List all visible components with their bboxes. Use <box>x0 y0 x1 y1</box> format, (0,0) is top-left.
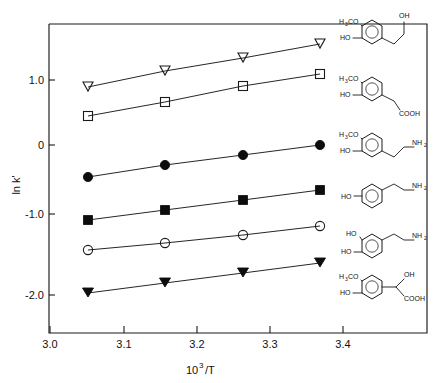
figure-container: 1.0 0 -1.0 -2.0 3.0 3.1 3.2 3.3 3.4 ln k… <box>0 0 437 383</box>
x-tick-label-1: 3.0 <box>42 338 57 350</box>
x-tick-label-4: 3.3 <box>262 338 277 350</box>
plot-frame <box>49 24 427 333</box>
structure-mhpg-methoxy-tail: CO <box>348 18 359 25</box>
structure-dopamine-hydroxy-top: HO <box>346 230 357 237</box>
structure-mtyr-methoxy-tail: CO <box>348 131 359 138</box>
x-tick-label-3: 3.2 <box>189 338 204 350</box>
structure-tyramine-terminal-sub: 2 <box>424 185 427 191</box>
structure-hva-hydroxy: HO <box>340 91 351 98</box>
vant-hoff-plot: 1.0 0 -1.0 -2.0 3.0 3.1 3.2 3.3 3.4 ln k… <box>0 0 437 383</box>
y-tick-label-4: -2.0 <box>25 289 44 301</box>
structure-mtyr-terminal: NH <box>412 139 422 146</box>
structure-hva-terminal: COOH <box>399 110 420 117</box>
series-hva <box>84 70 325 121</box>
structure-vma-terminal-top: OH <box>404 271 415 278</box>
structure-dopamine: HO HO NH 2 <box>341 230 427 258</box>
y-tick-label-3: -1.0 <box>25 208 44 220</box>
x-axis-ticks <box>50 326 343 333</box>
structure-hva: H 3 CO HO COOH <box>339 75 420 117</box>
structure-mtyr-methoxy: H <box>339 131 344 138</box>
series-3-methoxytyramine <box>83 140 324 181</box>
structure-mtyr-terminal-sub: 2 <box>424 142 427 148</box>
x-tick-label-2: 3.1 <box>116 338 131 350</box>
structure-tyramine-hydroxy: HO <box>341 193 352 200</box>
structure-mhpg-methoxy: H <box>339 18 344 25</box>
series-tyramine <box>84 186 325 225</box>
series-mhpg <box>83 39 325 91</box>
x-tick-label-5: 3.4 <box>335 338 350 350</box>
structure-tyramine-terminal: NH <box>412 182 422 189</box>
y-axis-title: ln k' <box>10 175 22 194</box>
structure-mtyr-hydroxy: HO <box>340 147 351 154</box>
structure-mhpg-hydroxy: HO <box>340 34 351 41</box>
y-tick-label-2: 0 <box>38 139 44 151</box>
structure-tyramine: HO NH 2 <box>341 182 427 208</box>
series-dopamine <box>83 221 324 254</box>
y-tick-label-1: 1.0 <box>29 74 44 86</box>
structure-vma-hydroxy: HO <box>340 289 351 296</box>
structure-vma: H 3 CO HO OH COOH <box>339 271 425 302</box>
y-axis-ticks <box>49 80 55 295</box>
x-axis-title: 10 3 /T <box>186 361 215 376</box>
structure-dopamine-terminal-sub: 2 <box>424 235 427 241</box>
x-axis-title-base: 10 <box>186 364 198 376</box>
structure-mhpg: H 3 CO HO OH <box>339 12 410 44</box>
structure-dopamine-terminal: NH <box>412 232 422 239</box>
structure-hva-methoxy: H <box>339 75 344 82</box>
x-axis-title-exponent: 3 <box>199 361 204 370</box>
structure-dopamine-hydroxy: HO <box>341 248 352 255</box>
structure-vma-methoxy-tail: CO <box>348 273 359 280</box>
series-vma <box>83 258 326 297</box>
structure-vma-terminal: COOH <box>404 295 425 302</box>
structure-3-methoxytyramine: H 3 CO HO NH 2 <box>339 131 427 157</box>
structure-hva-methoxy-tail: CO <box>348 75 359 82</box>
x-axis-title-tail: /T <box>205 364 215 376</box>
structure-vma-methoxy: H <box>339 273 344 280</box>
structure-mhpg-terminal: OH <box>399 12 410 19</box>
